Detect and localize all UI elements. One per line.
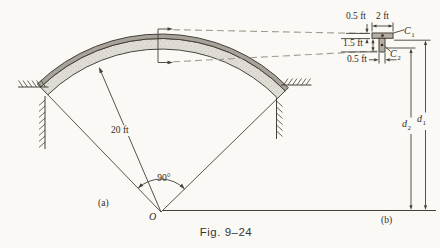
figure-caption: Fig. 9–24 bbox=[188, 226, 264, 238]
stem-width-label: 0.5 ft bbox=[339, 54, 367, 65]
centroid2-label: C2 bbox=[390, 48, 400, 61]
flange-width-label: 2 ft bbox=[368, 11, 397, 22]
centroid2-dot bbox=[381, 44, 384, 47]
figure-9-24: 0.5 ft 2 ft C1 1.5 ft C2 0.5 ft 20 ft 90… bbox=[0, 0, 440, 248]
centroid1-label: C1 bbox=[404, 25, 414, 38]
d2-label: d2 bbox=[402, 118, 411, 131]
arch-diagram-canvas bbox=[0, 0, 440, 248]
origin-label: O bbox=[149, 211, 156, 222]
panel-a-label: (a) bbox=[98, 198, 109, 209]
centroid1-leader bbox=[393, 30, 404, 33]
flange-width-dimension bbox=[372, 23, 393, 32]
flange-thickness-label: 0.5 ft bbox=[338, 11, 366, 22]
centroid1-dot bbox=[381, 34, 384, 37]
radius-label: 20 ft bbox=[110, 125, 130, 136]
panel-b-label: (b) bbox=[381, 215, 392, 226]
stem-height-label: 1.5 ft bbox=[335, 38, 363, 49]
arch-web-stipple bbox=[41, 38, 286, 98]
d1-label: d1 bbox=[417, 113, 426, 126]
angle-label: 90° bbox=[152, 173, 176, 184]
radius-lines bbox=[48, 67, 278, 212]
